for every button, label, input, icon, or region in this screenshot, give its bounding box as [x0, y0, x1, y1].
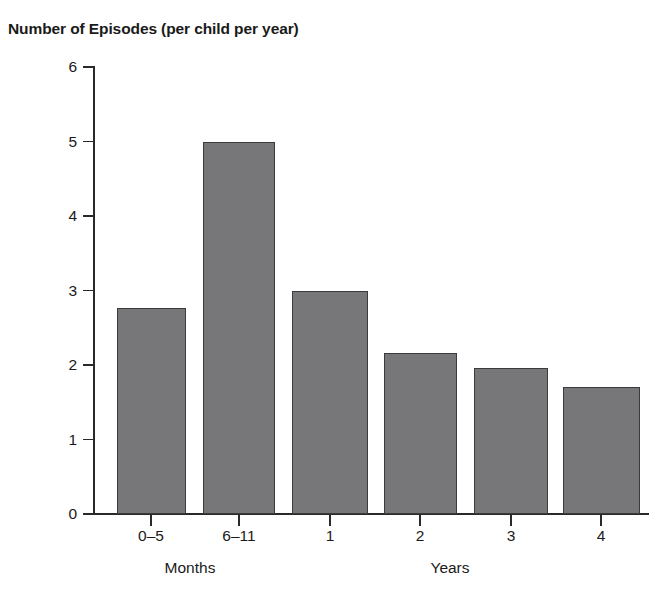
bar: [384, 353, 457, 514]
x-axis-tick-mark: [329, 515, 331, 526]
x-axis-tick-mark: [238, 515, 240, 526]
x-axis-tick-label: 2: [416, 528, 425, 544]
y-axis-tick-label: 4: [37, 208, 77, 224]
x-axis-tick-mark: [510, 515, 512, 526]
x-axis-tick-label: 3: [507, 528, 516, 544]
x-axis-tick-label: 1: [326, 528, 335, 544]
x-axis-tick-mark: [419, 515, 421, 526]
bar: [117, 308, 186, 514]
y-axis-tick-label: 5: [37, 134, 77, 150]
bar: [203, 142, 275, 515]
axis-group-label: Months: [165, 560, 216, 576]
y-axis-tick-label: 0: [37, 506, 77, 522]
bar: [563, 387, 640, 514]
y-axis-tick-mark: [83, 513, 94, 515]
bar-chart: Number of Episodes (per child per year) …: [0, 0, 668, 615]
x-axis-tick-label: 4: [597, 528, 606, 544]
bar: [474, 368, 548, 514]
chart-title: Number of Episodes (per child per year): [8, 20, 299, 38]
x-axis-tick-label: 0–5: [138, 528, 164, 544]
y-axis-tick-label: 1: [37, 432, 77, 448]
bar: [292, 291, 368, 515]
axis-group-label: Years: [430, 560, 469, 576]
y-axis-tick-mark: [83, 364, 94, 366]
y-axis-tick-label: 2: [37, 357, 77, 373]
y-axis-tick-mark: [83, 215, 94, 217]
y-axis-tick-mark: [83, 290, 94, 292]
x-axis-tick-mark: [150, 515, 152, 526]
x-axis-tick-mark: [600, 515, 602, 526]
y-axis-tick-mark: [83, 141, 94, 143]
y-axis-tick-label: 6: [37, 59, 77, 75]
y-axis-tick-label: 3: [37, 283, 77, 299]
y-axis-tick-mark: [83, 66, 94, 68]
x-axis-tick-label: 6–11: [222, 528, 255, 544]
y-axis-tick-mark: [83, 439, 94, 441]
